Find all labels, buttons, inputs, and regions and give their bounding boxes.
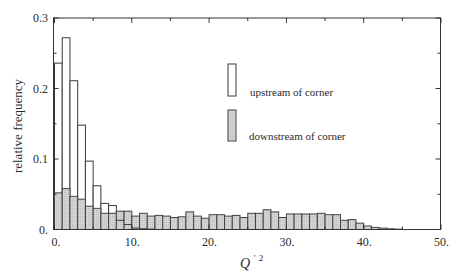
- downstream-bar: [194, 216, 202, 229]
- downstream-bar: [140, 213, 148, 229]
- downstream-bar: [155, 215, 163, 229]
- downstream-bar: [294, 214, 302, 230]
- y-tick-label: 0.2: [33, 82, 48, 96]
- downstream-bar: [186, 212, 194, 230]
- downstream-bar: [217, 215, 225, 230]
- x-tick-label: 0.: [52, 235, 61, 249]
- downstream-bar: [225, 216, 233, 229]
- downstream-bar: [263, 210, 271, 230]
- y-tick-label: 0.3: [33, 11, 48, 25]
- downstream-bar: [109, 213, 117, 229]
- downstream-bar: [341, 220, 349, 229]
- plot-border: [54, 18, 441, 230]
- x-tick-label: 30.: [279, 235, 294, 249]
- downstream-bar: [333, 215, 341, 230]
- downstream-bar: [101, 213, 109, 229]
- x-tick-label: 50.: [434, 235, 449, 249]
- downstream-bar: [348, 220, 356, 230]
- x-axis-label-main: Q: [240, 256, 250, 271]
- legend: upstream of corner downstream of corner: [228, 64, 346, 142]
- downstream-bar: [178, 217, 186, 230]
- downstream-bar: [163, 216, 171, 229]
- downstream-bar: [310, 214, 318, 230]
- downstream-bar: [93, 208, 101, 229]
- legend-label-upstream: upstream of corner: [250, 86, 333, 98]
- downstream-bar: [62, 189, 70, 230]
- downstream-bar: [85, 206, 93, 229]
- x-tick-label: 10.: [125, 235, 140, 249]
- downstream-bar: [356, 223, 364, 229]
- legend-label-downstream: downstream of corner: [249, 130, 346, 142]
- y-tick-label: 0.: [39, 223, 48, 237]
- x-tick-label: 40.: [357, 235, 372, 249]
- downstream-bar: [364, 226, 372, 230]
- downstream-bar: [271, 212, 279, 230]
- legend-swatch-upstream: [228, 64, 236, 96]
- x-axis-label: Q ' 2: [240, 249, 263, 271]
- downstream-bar: [279, 218, 287, 230]
- downstream-bar: [232, 215, 240, 229]
- x-tick-label: 20.: [202, 235, 217, 249]
- y-axis-label: relative frequency: [10, 78, 25, 173]
- x-axis-label-prime: ': [254, 253, 256, 263]
- downstream-bar: [286, 214, 294, 230]
- axis-ticks: [54, 18, 442, 230]
- downstream-bar: [132, 216, 140, 229]
- downstream-bar: [147, 216, 155, 229]
- downstream-bar: [124, 211, 132, 229]
- downstream-bar: [209, 215, 217, 230]
- histogram-chart: 0.10.20.30.40.50.0.0.10.20.3 upstream of…: [0, 0, 464, 274]
- downstream-bar: [201, 218, 209, 229]
- downstream-bar: [170, 218, 178, 230]
- downstream-bar: [55, 193, 63, 230]
- plot-frame: [54, 18, 441, 230]
- downstream-bar: [255, 213, 263, 229]
- downstream-bar: [240, 218, 248, 230]
- downstream-bar: [302, 214, 310, 230]
- downstream-bar: [317, 213, 325, 229]
- legend-swatch-downstream: [228, 110, 236, 141]
- downstream-bar: [78, 199, 86, 229]
- downstream-bar: [248, 213, 256, 229]
- downstream-bar: [325, 215, 333, 230]
- y-tick-label: 0.1: [33, 152, 48, 166]
- downstream-bar: [70, 196, 78, 229]
- x-axis-label-sup: 2: [259, 253, 264, 263]
